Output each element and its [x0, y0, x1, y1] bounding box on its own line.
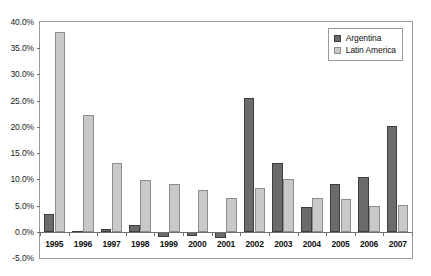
- y-tick-label: 5.0%: [15, 201, 34, 210]
- bar-group: [269, 22, 298, 258]
- y-tick-mark: [37, 206, 40, 207]
- y-tick-label: 20.0%: [10, 123, 34, 132]
- bar-argentina-2005: [330, 184, 341, 232]
- legend-swatch-icon: [334, 47, 341, 54]
- bar-latin-america-1997: [112, 163, 123, 232]
- bar-argentina-2007: [387, 126, 398, 232]
- bar-group: [154, 22, 183, 258]
- x-tick-mark: [40, 233, 41, 236]
- bar-latin-america-1998: [140, 180, 151, 232]
- bar-latin-america-2001: [226, 198, 237, 232]
- bar-latin-america-1996: [83, 115, 94, 232]
- x-tick-mark: [240, 233, 241, 236]
- bar-latin-america-2003: [283, 179, 294, 232]
- x-tick-mark: [183, 233, 184, 236]
- legend-item-latin-america: Latin America: [334, 44, 396, 56]
- x-tick-label-1995: 1995: [45, 240, 63, 249]
- bar-latin-america-2002: [255, 188, 266, 232]
- legend-item-argentina: Argentina: [334, 32, 396, 44]
- x-tick-label-2003: 2003: [274, 240, 292, 249]
- bar-group: [183, 22, 212, 258]
- plot-area: 1995199619971998199920002001200220032004…: [39, 21, 413, 259]
- y-tick-label: 15.0%: [10, 149, 34, 158]
- x-tick-label-2005: 2005: [331, 240, 349, 249]
- legend-label: Latin America: [346, 46, 396, 55]
- x-tick-mark: [383, 233, 384, 236]
- bar-latin-america-2005: [341, 199, 352, 232]
- y-tick-label: -5.0%: [12, 254, 34, 263]
- y-tick-label: 25.0%: [10, 96, 34, 105]
- x-tick-label-1998: 1998: [131, 240, 149, 249]
- x-tick-mark: [298, 233, 299, 236]
- x-tick-label-1997: 1997: [102, 240, 120, 249]
- y-tick-mark: [37, 101, 40, 102]
- bar-argentina-2003: [272, 163, 283, 232]
- x-tick-mark: [326, 233, 327, 236]
- bar-chart: 40.0%35.0%30.0%25.0%20.0%15.0%10.0%5.0%0…: [0, 0, 431, 276]
- bar-argentina-1998: [129, 225, 140, 232]
- x-tick-mark: [97, 233, 98, 236]
- bar-latin-america-2004: [312, 198, 323, 232]
- bar-group: [212, 22, 241, 258]
- bar-group: [97, 22, 126, 258]
- x-tick-label-2007: 2007: [389, 240, 407, 249]
- chart-legend: ArgentinaLatin America: [328, 28, 403, 61]
- y-tick-mark: [37, 153, 40, 154]
- x-tick-label-1999: 1999: [160, 240, 178, 249]
- bar-argentina-2002: [244, 98, 255, 232]
- y-tick-mark: [37, 179, 40, 180]
- bar-argentina-1995: [44, 214, 55, 232]
- y-tick-mark: [37, 74, 40, 75]
- x-tick-label-2004: 2004: [303, 240, 321, 249]
- bar-latin-america-1999: [169, 184, 180, 232]
- x-tick-mark: [126, 233, 127, 236]
- bar-group: [298, 22, 327, 258]
- x-tick-label-2006: 2006: [360, 240, 378, 249]
- y-axis: 40.0%35.0%30.0%25.0%20.0%15.0%10.0%5.0%0…: [0, 0, 38, 276]
- zero-baseline: [40, 232, 412, 233]
- x-tick-label-2000: 2000: [188, 240, 206, 249]
- y-tick-mark: [37, 48, 40, 49]
- y-tick-label: 40.0%: [10, 18, 34, 27]
- bar-latin-america-2007: [398, 205, 409, 232]
- x-tick-mark: [154, 233, 155, 236]
- bar-group: [40, 22, 69, 258]
- bar-group: [126, 22, 155, 258]
- bar-latin-america-2000: [198, 190, 209, 232]
- bar-latin-america-2006: [369, 206, 380, 232]
- x-tick-mark: [269, 233, 270, 236]
- bar-group: [240, 22, 269, 258]
- bar-argentina-2006: [358, 177, 369, 232]
- x-tick-label-1996: 1996: [74, 240, 92, 249]
- bar-argentina-2004: [301, 207, 312, 232]
- legend-swatch-icon: [334, 35, 341, 42]
- bar-latin-america-1995: [55, 32, 66, 231]
- x-tick-label-2002: 2002: [246, 240, 264, 249]
- y-tick-label: 0.0%: [15, 228, 34, 237]
- y-tick-label: 35.0%: [10, 44, 34, 53]
- x-tick-mark: [355, 233, 356, 236]
- bar-group: [69, 22, 98, 258]
- x-tick-mark: [212, 233, 213, 236]
- y-tick-label: 10.0%: [10, 175, 34, 184]
- legend-label: Argentina: [346, 34, 382, 43]
- y-tick-mark: [37, 127, 40, 128]
- x-tick-label-2001: 2001: [217, 240, 235, 249]
- x-tick-mark: [69, 233, 70, 236]
- y-tick-label: 30.0%: [10, 70, 34, 79]
- x-tick-mark: [412, 233, 413, 236]
